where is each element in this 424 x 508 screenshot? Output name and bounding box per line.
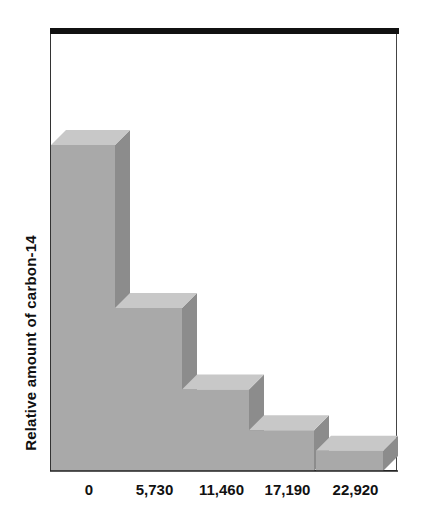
x-tick-label: 17,190 bbox=[265, 481, 311, 498]
bar-front-face bbox=[316, 451, 383, 471]
x-tick-label: 11,460 bbox=[199, 481, 244, 498]
bar-front-face bbox=[182, 390, 249, 472]
x-tick-label: 5,730 bbox=[136, 481, 174, 498]
x-tick-label: 22,920 bbox=[333, 481, 379, 498]
carbon-14-decay-chart: Relative amount of carbon-14 05,73011,46… bbox=[0, 0, 424, 508]
bar-front-face bbox=[51, 145, 115, 471]
x-tick-label: 0 bbox=[85, 481, 93, 498]
y-axis-label: Relative amount of carbon-14 bbox=[22, 235, 39, 451]
bars-layer bbox=[0, 0, 424, 508]
bar-4 bbox=[316, 436, 398, 471]
bar-front-face bbox=[115, 308, 182, 471]
bar-front-face bbox=[249, 430, 314, 471]
